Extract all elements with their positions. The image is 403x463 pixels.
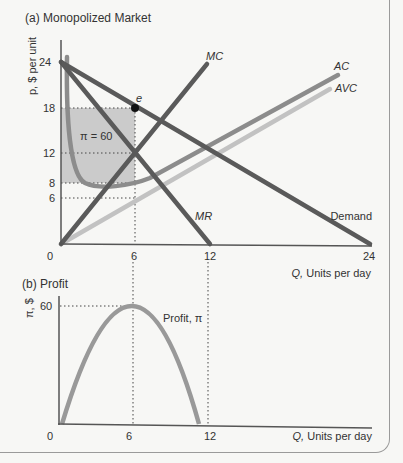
demand-label: Demand bbox=[330, 210, 372, 222]
ac-label: AC bbox=[333, 60, 349, 72]
xtick-24: 24 bbox=[363, 250, 375, 262]
profit-curve-label: Profit, π bbox=[163, 312, 203, 324]
panel-a-xlabel: Q, Units per day bbox=[292, 267, 372, 279]
ytick-24: 24 bbox=[39, 56, 51, 68]
avc-label: AVC bbox=[334, 82, 357, 94]
panel-b-x-axis bbox=[58, 424, 372, 428]
ytick-6: 6 bbox=[49, 192, 55, 204]
chart-svg: (a) Monopolized Market p, $ per unit 24 … bbox=[0, 0, 403, 463]
b-xtick-0: 0 bbox=[47, 430, 53, 442]
ytick-18: 18 bbox=[43, 102, 55, 114]
e-label: e bbox=[136, 92, 142, 104]
panel-a-title: (a) Monopolized Market bbox=[25, 11, 152, 25]
panel-a-x-axis bbox=[60, 244, 372, 246]
b-xtick-6: 6 bbox=[126, 430, 132, 442]
mr-label: MR bbox=[195, 210, 212, 222]
panel-a-ylabel: p, $ per unit bbox=[26, 37, 38, 95]
panel-b-ylabel: π, $ bbox=[23, 298, 35, 318]
xtick-12: 12 bbox=[204, 250, 216, 262]
profit-area-label: π = 60 bbox=[80, 130, 112, 142]
mc-label: MC bbox=[206, 50, 223, 62]
ytick-8: 8 bbox=[49, 177, 55, 189]
xtick-0: 0 bbox=[47, 250, 53, 262]
ytick-60: 60 bbox=[40, 300, 52, 312]
panel-b-title: (b) Profit bbox=[22, 277, 69, 291]
profit-guide-lines bbox=[60, 262, 208, 424]
b-xtick-12: 12 bbox=[204, 430, 216, 442]
ytick-12: 12 bbox=[43, 147, 55, 159]
panel-b-xlabel: Q, Units per day bbox=[293, 430, 373, 442]
equilibrium-point bbox=[131, 104, 139, 112]
xtick-6: 6 bbox=[131, 250, 137, 262]
